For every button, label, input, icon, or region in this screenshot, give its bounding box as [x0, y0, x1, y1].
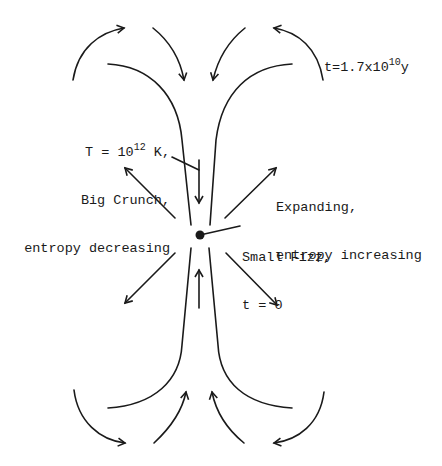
top-inner-right-arrow [213, 28, 245, 80]
big-crunch-label: T = 1012 K, Big Crunch, entropy decreasi… [20, 113, 170, 289]
small-fizz-dot [196, 231, 205, 240]
expanding-title: Expanding, [276, 200, 422, 216]
crunch-temp-base: T = 10 [85, 145, 134, 160]
top-right-arc-arrow [274, 28, 323, 80]
small-fizz-label: Small Fizz, t = 0 [242, 218, 331, 346]
crunch-temp-unit: K, [146, 145, 170, 160]
crunch-entropy: entropy decreasing [20, 241, 170, 257]
bottom-inner-right-arrow [212, 392, 244, 443]
time-label-unit: y [401, 60, 409, 75]
fizz-title: Small Fizz, [242, 250, 331, 266]
time-label-exponent: 10 [389, 57, 401, 68]
ne-arrow [225, 168, 276, 218]
crunch-temp-exponent: 12 [134, 142, 146, 153]
top-left-arc-arrow [73, 28, 124, 80]
cosmology-diagram: t=1.7x1010y T = 1012 K, Big Crunch, entr… [0, 0, 442, 466]
crunch-temperature: T = 1012 K, [20, 145, 170, 161]
crunch-title: Big Crunch, [20, 193, 170, 209]
top-inner-left-arrow [153, 28, 184, 80]
time-label: t=1.7x1010y [324, 60, 409, 76]
bottom-left-arc-arrow [74, 390, 125, 443]
fizz-time: t = 0 [242, 298, 331, 314]
bottom-inner-left-arrow [154, 392, 186, 443]
fizz-leader-line [200, 226, 240, 235]
time-label-base: t=1.7x10 [324, 60, 389, 75]
bottom-right-arc-arrow [274, 392, 324, 443]
